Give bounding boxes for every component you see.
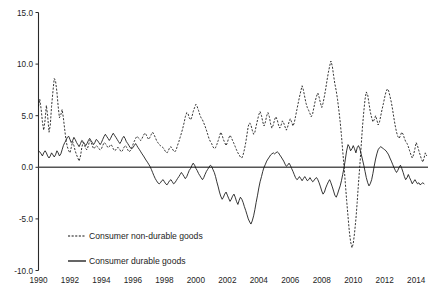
y-axis-tick-label: -5.0 [19, 215, 34, 224]
x-axis-tick-label: 2012 [376, 276, 395, 285]
line-chart-plot: 15.010.05.00.0-5.0-10.0 1990199219941996… [0, 0, 431, 295]
y-axis-tick-label: 5.0 [22, 112, 34, 121]
y-axis-tick-label: 15.0 [17, 9, 33, 18]
x-axis-tick-label: 2008 [313, 276, 332, 285]
legend-label-durable: Consumer durable goods [89, 256, 186, 266]
x-axis-tick-label: 1990 [29, 276, 48, 285]
y-axis-tick-label: -10.0 [14, 267, 33, 276]
chart-figure: 15.010.05.00.0-5.0-10.0 1990199219941996… [0, 0, 431, 295]
x-axis-tick-label: 1996 [124, 276, 143, 285]
x-axis-tick-label: 1998 [155, 276, 174, 285]
x-axis-tick-label: 2004 [250, 276, 269, 285]
x-axis-tick-label: 1992 [61, 276, 80, 285]
x-axis-tick-label: 2002 [218, 276, 237, 285]
x-axis-tick-label: 2000 [187, 276, 206, 285]
x-axis-tick-label: 2014 [407, 276, 426, 285]
legend-label-non-durable: Consumer non-durable goods [89, 231, 203, 241]
y-axis-tick-label: 0.0 [22, 163, 34, 172]
y-axis-tick-label: 10.0 [17, 60, 33, 69]
x-axis-tick-label: 2010 [344, 276, 363, 285]
x-axis-tick-label: 1994 [92, 276, 111, 285]
x-axis-tick-label: 2006 [281, 276, 300, 285]
